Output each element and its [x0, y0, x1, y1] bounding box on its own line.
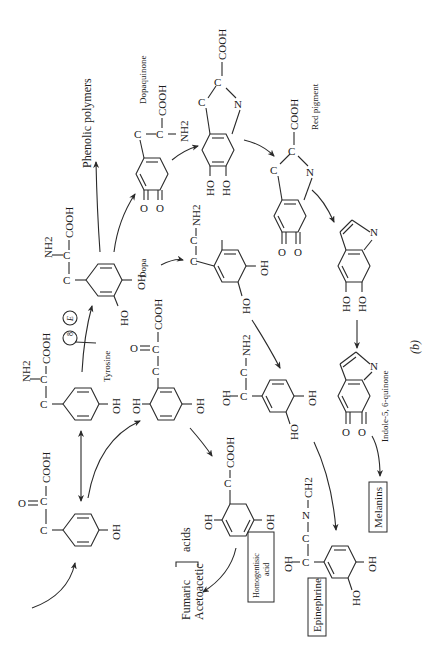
n-atom: N: [370, 226, 378, 238]
oh-group: OH: [110, 524, 122, 540]
cooh-group: COOH: [40, 452, 52, 483]
c-atom: C: [40, 495, 47, 507]
ho-group: HO: [350, 590, 362, 606]
red-pigment-label: Red pigment: [310, 83, 320, 130]
ho-group: HO: [220, 180, 232, 196]
tyrosine-label: Tyrosine: [102, 351, 112, 382]
dopamine-to-norepinephrine-arrow: [252, 320, 280, 368]
cooh-group: COOH: [288, 99, 300, 130]
indolequinone-to-melanins-arrow: [372, 436, 380, 476]
acetoacetic-label: Acetoacetic: [192, 563, 206, 620]
o-atom: O: [294, 246, 302, 258]
o-atom: O: [342, 426, 350, 438]
n-atom: N: [370, 360, 378, 372]
o-atom: O: [278, 246, 286, 258]
ch2-group: CH2: [302, 477, 314, 498]
cooh-group: COOH: [40, 333, 52, 364]
oh-group: OH: [110, 398, 122, 414]
c-atom: C: [302, 532, 309, 544]
phenolic-polymers-label: Phenolic polymers: [80, 78, 94, 168]
n-atom: N: [302, 509, 310, 521]
c-atom: C: [270, 164, 277, 176]
cooh-group: COOH: [224, 437, 236, 468]
tyrosine-to-dopa-arrow: [82, 306, 92, 372]
acids-label: acids: [179, 527, 193, 552]
cooh-group: COOH: [156, 85, 168, 116]
cooh-group: COOH: [63, 207, 75, 238]
dopa-to-dopaquinone-arrow: [114, 194, 135, 252]
o-atom: O: [140, 202, 148, 214]
homogentisic-to-end-products-arrow: [203, 548, 236, 592]
dopamine-structure: C C NH2 OH HO: [190, 205, 270, 314]
dopa-structure: C C NH2 COOH OH HO Dopa: [42, 207, 148, 326]
ho-group: HO: [288, 424, 300, 440]
ho-group: HO: [340, 296, 352, 312]
arrow-to-phenolic-polymers: [96, 162, 100, 252]
indolequinone-structure: N O O Indole-5, 6-quinone: [338, 352, 390, 442]
c-atom: C: [134, 128, 141, 140]
panel-label: (b): [408, 340, 422, 354]
nh2-group: NH2: [190, 205, 202, 226]
c-atom: C: [224, 477, 231, 489]
enzyme-e-label: E: [66, 316, 75, 322]
tyrosine-structure: C C NH2 COOH OH Tyrosine: [20, 333, 122, 420]
n-atom: N: [306, 166, 314, 178]
nh2-group: NH2: [42, 237, 54, 258]
ho-group: HO: [356, 296, 368, 312]
c-atom: C: [240, 366, 247, 378]
oh-group: OH: [306, 390, 318, 406]
enzyme-8-label: 8: [66, 332, 75, 336]
c-atom: C: [40, 524, 47, 536]
o-atom: O: [156, 202, 164, 214]
o-atom: O: [130, 342, 138, 354]
oh-group: OH: [202, 514, 214, 530]
c-atom: C: [302, 556, 309, 568]
oh-group: OH: [366, 556, 378, 572]
norepinephrine-structure: C OH C NH2 OH HO: [220, 335, 318, 440]
homogentisic-label-line1: Homogentisic: [252, 553, 261, 598]
oh-group: OH: [130, 398, 142, 414]
oh-group: OH: [220, 390, 232, 406]
homogentisic-box: Homogentisic acid: [248, 532, 274, 602]
dopaquinone-label: Dopaquinone: [138, 56, 148, 105]
nh2-group: NH2: [240, 335, 252, 356]
c-atom: C: [198, 96, 205, 108]
red-pigment-structure: C C COOH N O O Red pigment: [270, 83, 320, 258]
o-atom: O: [358, 426, 366, 438]
leucodopachrome-to-red-pigment-arrow: [244, 140, 274, 156]
tyrosine-metabolism-diagram: C C O COOH OH C C NH2 COOH OH Tyrosine 8: [0, 0, 434, 664]
dopa-to-dopamine-arrow: [161, 260, 183, 265]
oh-group: OH: [194, 398, 206, 414]
dopaquinone-structure: C C COOH NH2 O O Dopaquinone: [134, 56, 190, 215]
ho-group: HO: [204, 180, 216, 196]
c-atom: C: [40, 373, 47, 385]
end-products: Fumaric Acetoacetic acids: [176, 527, 206, 620]
oh-group: OH: [282, 556, 294, 572]
oh-group: OH: [264, 514, 276, 530]
entry-arrow: [32, 563, 75, 608]
hppa-oxidized-structure: C C O COOH OH OH: [130, 299, 206, 420]
fumaric-label: Fumaric: [179, 580, 193, 620]
homogentisic-label-line2: acid: [262, 563, 271, 576]
c-atom: C: [240, 390, 247, 402]
epinephrine-structure: C OH C N CH2 OH HO: [282, 477, 378, 606]
hppa-structure: C C O COOH OH: [18, 452, 122, 546]
arrow-to-intermediate: [88, 421, 140, 498]
c-atom: C: [40, 398, 47, 410]
homogentisic-structure: C COOH OH OH: [202, 437, 276, 536]
melanins-label: Melanins: [372, 487, 384, 528]
c-atom: C: [214, 76, 221, 88]
o-atom: O: [18, 497, 26, 509]
oh-group: OH: [258, 260, 270, 276]
epinephrine-label: Epinephrine: [311, 578, 323, 632]
intermediate-to-homogentisic-arrow: [190, 428, 212, 456]
norepinephrine-to-epinephrine-arrow: [314, 442, 336, 530]
nh2-group: NH2: [20, 361, 32, 382]
ho-group: HO: [118, 310, 130, 326]
n-atom: N: [234, 98, 242, 110]
c-atom: C: [288, 145, 295, 157]
c-atom: C: [152, 365, 159, 377]
cooh-group: COOH: [216, 29, 228, 60]
dopa-label: Dopa: [138, 259, 148, 279]
c-atom: C: [63, 249, 70, 261]
